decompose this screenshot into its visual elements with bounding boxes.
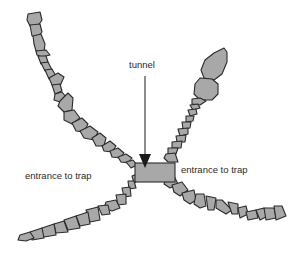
fish-trap-diagram: [0, 0, 301, 256]
upper-left-stone-wall: [27, 12, 137, 168]
tunnel-arrow: [139, 76, 151, 168]
lower-right-stone-wall: [164, 176, 286, 220]
tunnel-label: tunnel: [129, 60, 155, 70]
tunnel-box: [135, 163, 175, 182]
upper-right-stone-wall: [164, 48, 227, 162]
entrance-right-label: entrance to trap: [181, 165, 248, 175]
lower-left-stone-wall: [18, 174, 139, 241]
entrance-left-label: entrance to trap: [25, 171, 92, 181]
